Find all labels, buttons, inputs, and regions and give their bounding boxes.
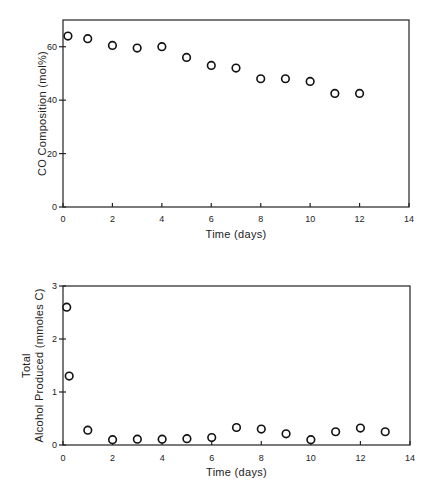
x-tick-label: 0: [60, 453, 65, 463]
data-point: [84, 426, 92, 434]
y-tick-label: 60: [47, 42, 57, 52]
x-tick-label: 2: [110, 453, 115, 463]
data-point: [133, 44, 141, 52]
y-axis-label: TotalAlcohol Produced (mmoles C): [20, 288, 45, 442]
data-point: [183, 435, 191, 443]
data-point: [257, 75, 265, 83]
data-point: [134, 435, 142, 443]
y-tick-label: 0: [52, 202, 57, 212]
x-axis-label: Time (days): [206, 228, 267, 240]
data-point: [257, 425, 265, 433]
co-composition-plot: 024681012140204060Time (days)CO Composit…: [0, 0, 432, 250]
alcohol-produced-chart: 024681012140123Time (days)TotalAlcohol P…: [0, 262, 432, 498]
data-point: [84, 35, 92, 43]
x-tick-label: 6: [209, 214, 214, 224]
x-axis-label: Time (days): [206, 466, 267, 478]
x-tick-label: 8: [258, 214, 263, 224]
data-point: [158, 435, 166, 443]
data-point: [64, 32, 72, 40]
data-point: [331, 90, 339, 98]
data-point: [208, 434, 216, 442]
x-tick-label: 10: [305, 214, 315, 224]
data-point: [207, 62, 215, 70]
data-point: [109, 42, 117, 50]
y-tick-label: 20: [47, 149, 57, 159]
x-tick-label: 4: [159, 214, 164, 224]
x-tick-label: 8: [259, 453, 264, 463]
y-tick-label: 40: [47, 95, 57, 105]
data-point: [65, 372, 73, 380]
x-tick-label: 2: [110, 214, 115, 224]
data-point: [232, 64, 240, 72]
data-point: [158, 43, 166, 51]
x-tick-label: 10: [306, 453, 316, 463]
co-composition-chart: 024681012140204060Time (days)CO Composit…: [0, 0, 432, 250]
x-tick-label: 12: [355, 214, 365, 224]
data-point: [282, 75, 290, 83]
plot-frame: [63, 286, 410, 445]
y-tick-label: 3: [52, 281, 57, 291]
y-axis-label: CO Composition (mol%): [36, 51, 48, 176]
x-tick-label: 6: [209, 453, 214, 463]
data-point: [332, 428, 340, 436]
data-point: [306, 78, 314, 86]
y-tick-label: 2: [52, 334, 57, 344]
data-point: [307, 436, 315, 444]
x-tick-label: 14: [404, 214, 414, 224]
alcohol-produced-plot: 024681012140123Time (days)TotalAlcohol P…: [0, 262, 432, 498]
data-point: [282, 430, 290, 438]
data-point: [63, 303, 71, 311]
y-tick-label: 0: [52, 440, 57, 450]
data-point: [233, 424, 241, 432]
x-tick-label: 0: [60, 214, 65, 224]
x-tick-label: 12: [355, 453, 365, 463]
x-tick-label: 14: [405, 453, 415, 463]
data-point: [381, 428, 389, 436]
x-tick-label: 4: [160, 453, 165, 463]
data-point: [109, 436, 117, 444]
data-point: [183, 54, 191, 62]
data-point: [356, 90, 364, 98]
data-point: [357, 424, 365, 432]
y-tick-label: 1: [52, 387, 57, 397]
